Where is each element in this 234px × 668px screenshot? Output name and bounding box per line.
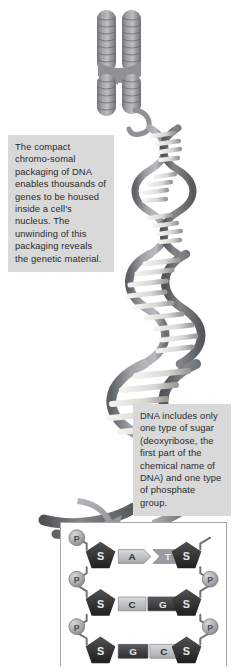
callout-sugar-phosphate: DNA includes only one type of sugar (deo… (133, 404, 231, 516)
base-left-label: G (129, 646, 137, 657)
base-pair-diagram: P S A T S P P S C (61, 523, 226, 668)
sugar-right-label: S (183, 598, 190, 610)
sugar-right-label: S (183, 645, 190, 657)
callout-sugar-text: DNA includes only one type of sugar (deo… (140, 410, 225, 509)
base-pair-row: P S G C S (69, 619, 201, 663)
chromosome-icon (97, 10, 149, 134)
sugar-left-label: S (97, 645, 104, 657)
base-pair-panel: P S A T S P P S C (60, 522, 227, 668)
sugar-right-label: S (183, 550, 190, 562)
phosphate-left-label: P (74, 575, 80, 585)
phosphate-left-label: P (74, 623, 80, 633)
phosphate-right-label: P (207, 623, 213, 633)
phosphate-left-label: P (74, 534, 80, 544)
sugar-left-label: S (97, 598, 104, 610)
base-right-label: G (159, 599, 167, 610)
base-pair-row: P S A T S P (69, 530, 218, 587)
callout-chromosome-text: The compact chromo-somal packaging of DN… (15, 141, 107, 265)
base-pair-row: P S C G S P (69, 571, 218, 634)
callout-chromosome-packaging: The compact chromo-somal packaging of DN… (8, 135, 114, 272)
base-left-label: A (129, 551, 136, 562)
phosphate-right-label: P (207, 575, 213, 585)
base-right-label: T (165, 551, 171, 562)
base-right-label: C (160, 646, 167, 657)
base-left-label: C (129, 599, 136, 610)
sugar-left-label: S (97, 550, 104, 562)
dna-packaging-figure: The compact chromo-somal packaging of DN… (0, 0, 234, 668)
